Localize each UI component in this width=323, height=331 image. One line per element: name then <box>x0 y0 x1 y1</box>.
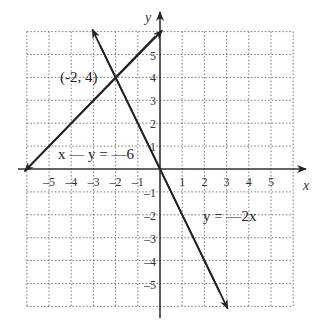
x-tick-label: 2 <box>201 175 207 189</box>
x-tick-label: –4 <box>64 175 77 189</box>
y-tick-label: –3 <box>143 232 156 246</box>
line-label-y-equals-neg2x: y = —2x <box>203 208 257 224</box>
x-tick-label: 1 <box>179 175 185 189</box>
x-tick-label: –2 <box>109 175 122 189</box>
x-tick-label: –1 <box>131 175 144 189</box>
y-tick-label: –4 <box>143 255 156 269</box>
y-axis-label: y <box>143 10 152 25</box>
y-tick-label: 3 <box>150 94 156 108</box>
y-tick-label: –2 <box>143 209 156 223</box>
x-tick-label: 4 <box>246 175 252 189</box>
y-tick-label: –1 <box>143 186 156 200</box>
y-tick-label: 2 <box>150 117 156 131</box>
coordinate-plane: –5–4–3–2–11234554321–1–2–3–4–5 x y (-2, … <box>0 0 323 331</box>
line-label-x-minus-y: x — y = —6 <box>58 146 134 162</box>
x-axis-label: x <box>302 178 310 193</box>
y-tick-label: 4 <box>150 71 156 85</box>
x-tick-label: –3 <box>86 175 99 189</box>
y-tick-label: 1 <box>150 140 156 154</box>
y-tick-label: 5 <box>150 49 156 63</box>
x-tick-label: 5 <box>268 175 274 189</box>
intersection-point-label: (-2, 4) <box>60 69 98 86</box>
x-tick-label: 3 <box>224 175 230 189</box>
x-tick-label: –5 <box>42 175 55 189</box>
y-tick-label: –5 <box>143 278 156 292</box>
axes <box>18 12 306 318</box>
